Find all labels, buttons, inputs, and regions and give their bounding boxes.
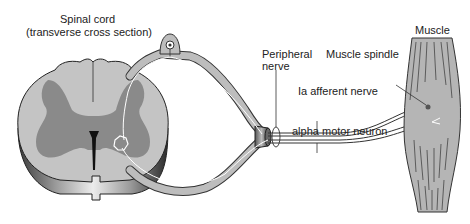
- muscle-spindle-label: Muscle spindle: [326, 48, 399, 61]
- muscle-label: Muscle: [415, 24, 450, 37]
- peripheral-nerve-label-2: nerve: [262, 60, 290, 73]
- muscle: [396, 38, 461, 212]
- spinal-cord-title: Spinal cord: [60, 13, 115, 26]
- ia-afferent-label: Ia afferent nerve: [298, 85, 378, 98]
- spinal-cord-subtitle: (transverse cross section): [26, 26, 152, 39]
- alpha-motor-label: alpha motor neuron: [292, 125, 387, 138]
- peripheral-nerve-ring: [272, 127, 280, 147]
- muscle-belly: [404, 38, 461, 212]
- muscle-spindle: [426, 105, 431, 110]
